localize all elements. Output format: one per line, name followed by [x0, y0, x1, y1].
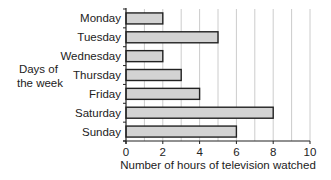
y-tick-label: Friday	[89, 88, 121, 100]
x-tick-label: 6	[233, 146, 239, 158]
x-tick-label: 8	[270, 146, 276, 158]
y-tick-label: Saturday	[75, 107, 121, 119]
y-tick-labels: MondayTuesdayWednesdayThursdayFridaySatu…	[60, 12, 121, 137]
x-tick-label: 4	[196, 146, 203, 158]
y-tick-label: Sunday	[82, 126, 121, 138]
bar-saturday	[126, 107, 273, 118]
x-tick-label: 0	[123, 146, 129, 158]
y-tick-label: Tuesday	[77, 31, 121, 43]
bar-chart: MondayTuesdayWednesdayThursdayFridaySatu…	[0, 0, 331, 180]
y-tick-label: Thursday	[73, 69, 121, 81]
y-axis-title-line-2: the week	[17, 77, 63, 89]
bar-tuesday	[126, 32, 218, 43]
y-tick-label: Wednesday	[60, 50, 121, 62]
y-axis-title: Days of the week	[17, 63, 63, 89]
x-tick-labels: 0246810	[123, 146, 317, 158]
y-tick-label: Monday	[80, 12, 121, 24]
bar-thursday	[126, 70, 181, 81]
bar-sunday	[126, 126, 236, 137]
x-axis-title: Number of hours of television watched	[120, 159, 316, 171]
bar-friday	[126, 88, 200, 99]
bar-monday	[126, 13, 163, 24]
x-tick-label: 2	[160, 146, 166, 158]
y-axis-title-line-1: Days of	[19, 63, 59, 75]
x-tick-label: 10	[304, 146, 317, 158]
bar-wednesday	[126, 51, 163, 62]
